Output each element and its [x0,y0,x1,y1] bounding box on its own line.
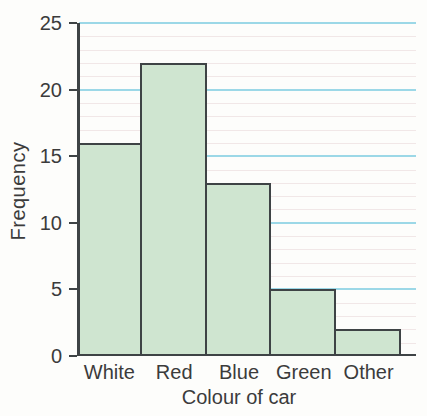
y-tick-label: 10 [0,212,62,234]
y-tick-mark [69,89,77,91]
axis-ticks-layer: 0510152025WhiteRedBlueGreenOther [0,0,427,416]
x-category-label-white: White [84,360,135,384]
x-category-label-other: Other [344,360,394,384]
y-tick-label: 20 [0,79,62,101]
y-tick-label: 25 [0,12,62,34]
x-axis-title: Colour of car [182,386,297,409]
y-tick-mark [69,355,77,357]
y-tick-label: 0 [0,345,62,367]
bar-chart-figure: Frequency 0510152025WhiteRedBlueGreenOth… [0,0,427,416]
y-tick-label: 15 [0,145,62,167]
y-tick-label: 5 [0,278,62,300]
x-category-label-green: Green [276,360,332,384]
y-tick-mark [69,155,77,157]
y-tick-mark [69,22,77,24]
x-category-label-blue: Blue [219,360,259,384]
y-tick-mark [69,288,77,290]
x-category-label-red: Red [156,360,193,384]
y-tick-mark [69,222,77,224]
